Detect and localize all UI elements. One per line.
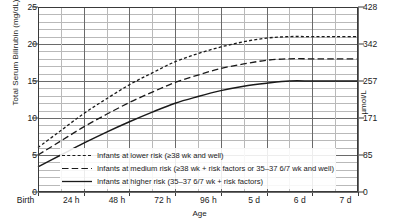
legend-item-lower-risk: Infants at lower risk (≥38 wk and well) — [62, 149, 334, 162]
legend-swatch-solid — [62, 177, 92, 186]
x-axis-tick-label: 6 d — [275, 195, 325, 205]
x-axis-tick-label: Birth — [1, 195, 51, 205]
legend-item-medium-risk: Infants at medium risk (≥38 wk + risk fa… — [62, 162, 334, 175]
x-axis-tick-label: 5 d — [229, 195, 279, 205]
x-axis-tick-label: 7 d — [321, 195, 371, 205]
x-axis-tick-label: 96 h — [183, 195, 233, 205]
x-axis-title: Age — [0, 209, 399, 218]
y-axis-right-tick-label: 85 — [363, 150, 399, 160]
legend-swatch-dotted — [62, 151, 92, 160]
y-axis-right-tick-label: 342 — [363, 39, 399, 49]
y-axis-right-tick-label: 171 — [363, 113, 399, 123]
y-axis-right-tick-label: 257 — [363, 76, 399, 86]
y-axis-right-tick-label: 428 — [363, 2, 399, 12]
x-axis-tick-label: 72 h — [138, 195, 188, 205]
gridline-x-major — [358, 7, 359, 192]
curve-medium-risk — [38, 59, 358, 155]
legend-label-higher-risk: Infants at higher risk (35–37 6/7 wk + r… — [97, 178, 263, 186]
legend: Infants at lower risk (≥38 wk and well) … — [60, 148, 336, 189]
legend-label-medium-risk: Infants at medium risk (≥38 wk + risk fa… — [97, 165, 334, 173]
x-axis-tick-label: 48 h — [92, 195, 142, 205]
tickmark-bottom — [358, 192, 359, 196]
curve-lower-risk — [38, 36, 358, 147]
legend-swatch-dashed — [62, 164, 92, 173]
bilirubin-nomogram-chart: Total Serum Bilirubin (mg/dL) µmol/L Age… — [0, 0, 399, 224]
gridline-y-major — [38, 192, 358, 193]
legend-label-lower-risk: Infants at lower risk (≥38 wk and well) — [97, 152, 224, 160]
y-axis-left-title: Total Serum Bilirubin (mg/dL) — [11, 0, 20, 128]
y-axis-right-title: µmol/L — [359, 58, 368, 148]
legend-item-higher-risk: Infants at higher risk (35–37 6/7 wk + r… — [62, 175, 334, 188]
x-axis-tick-label: 24 h — [46, 195, 96, 205]
